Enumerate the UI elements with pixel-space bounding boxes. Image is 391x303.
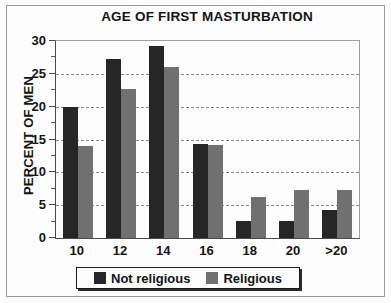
bar xyxy=(78,146,93,238)
x-axis-tick-label: 10 xyxy=(55,243,98,258)
chart-title: AGE OF FIRST MASTURBATION xyxy=(55,9,359,24)
y-axis-tick-label: 10 xyxy=(6,165,46,178)
legend-swatch-icon xyxy=(206,272,218,284)
x-axis-tick-label: 18 xyxy=(228,243,271,258)
plot-area xyxy=(55,40,360,239)
legend-entry: Religious xyxy=(206,271,282,286)
bar xyxy=(63,107,78,238)
bar xyxy=(294,190,309,238)
legend-entry: Not religious xyxy=(94,271,190,286)
bar xyxy=(279,221,294,238)
bar xyxy=(322,210,337,238)
bar xyxy=(121,89,136,238)
gridline xyxy=(56,74,359,75)
bar xyxy=(106,59,121,238)
bar xyxy=(208,145,223,238)
x-axis-tick-label: 12 xyxy=(98,243,141,258)
bar xyxy=(236,221,251,238)
y-axis-tick-label: 0 xyxy=(6,231,46,244)
legend-label: Religious xyxy=(223,271,282,286)
gridline xyxy=(56,140,359,141)
y-axis-tick-label: 15 xyxy=(6,133,46,146)
y-axis-tick-label: 20 xyxy=(6,100,46,113)
y-axis-tick-label: 5 xyxy=(6,198,46,211)
bar xyxy=(337,190,352,238)
x-axis-tick-label: 20 xyxy=(271,243,314,258)
chart-legend: Not religiousReligious xyxy=(76,267,300,289)
legend-label: Not religious xyxy=(111,271,190,286)
x-axis-tick-label: >20 xyxy=(315,243,358,258)
x-axis-tick-label: 14 xyxy=(142,243,185,258)
x-axis-tick-label: 16 xyxy=(185,243,228,258)
bar xyxy=(164,67,179,238)
bar xyxy=(251,197,266,238)
y-axis-tick-label: 30 xyxy=(6,34,46,47)
y-axis-tick-label: 25 xyxy=(6,67,46,80)
bar xyxy=(149,46,164,238)
bar xyxy=(193,144,208,238)
gridline xyxy=(56,107,359,108)
legend-swatch-icon xyxy=(94,272,106,284)
chart-figure: AGE OF FIRST MASTURBATION PERCENT OF MEN… xyxy=(0,0,391,303)
